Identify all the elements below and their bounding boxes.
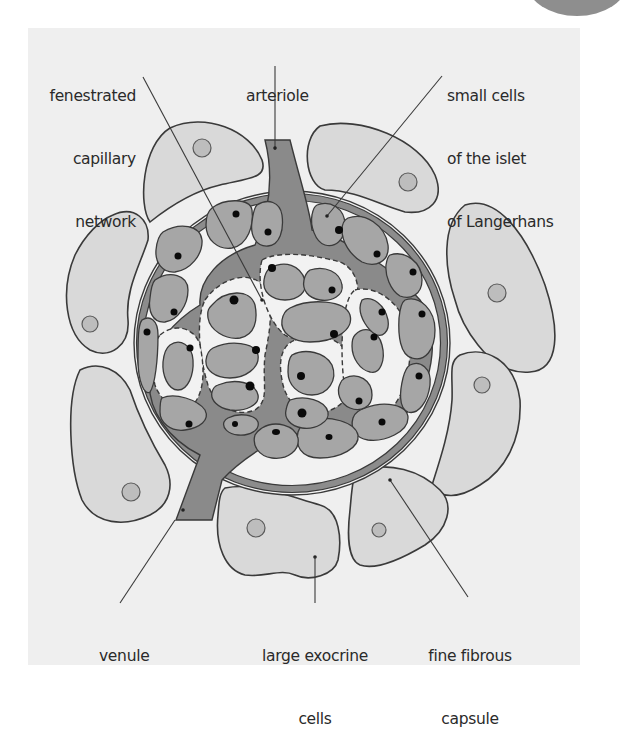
leader-venule bbox=[120, 520, 175, 603]
label-large-exocrine-cells: large exocrine cells bbox=[255, 604, 375, 731]
label-fenestrated-capillary-network: fenestrated capillary network bbox=[40, 44, 136, 254]
label-venule: venule bbox=[99, 604, 149, 688]
label-arteriole: arteriole bbox=[246, 44, 309, 128]
label-fine-fibrous-capsule: fine fibrous capsule bbox=[420, 604, 520, 731]
label-small-cells-islet: small cells of the islet of Langerhans bbox=[447, 44, 554, 254]
exocrine-cell bbox=[217, 486, 339, 577]
